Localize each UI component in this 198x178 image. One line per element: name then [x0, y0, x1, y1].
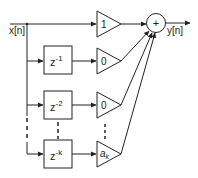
svg-text:0: 0	[101, 100, 107, 111]
delay-block-k: z-k	[44, 140, 72, 168]
summing-junction: +	[147, 14, 166, 33]
input-label: x[n]	[9, 25, 25, 36]
plus-icon: +	[153, 17, 159, 29]
svg-text:0: 0	[101, 56, 107, 67]
gain-block-k: ak	[97, 141, 121, 167]
gain-block-0: 1	[97, 11, 121, 37]
delay-block-2: z-2	[44, 91, 72, 119]
gain-block-1: 0	[97, 48, 121, 74]
gain-to-sum-arrow-1	[121, 31, 149, 61]
svg-text:1: 1	[101, 19, 107, 30]
gain-block-2: 0	[97, 92, 121, 118]
output-label: y[n]	[167, 25, 183, 36]
delay-bus	[26, 23, 28, 154]
fir-block-diagram: x[n] z-1 z-2 z-k 1 0	[0, 0, 198, 178]
delay-block-1: z-1	[44, 46, 72, 74]
